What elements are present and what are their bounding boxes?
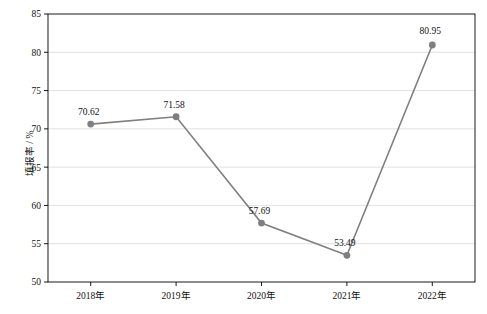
data-point-label: 70.62	[78, 107, 100, 117]
data-point	[87, 121, 94, 128]
data-point-label: 53.49	[334, 238, 356, 248]
x-tick-label: 2021年	[332, 290, 361, 301]
y-axis-ticks: 5055606570758085	[32, 9, 49, 287]
data-point-label: 80.95	[420, 26, 442, 36]
x-axis-ticks: 2018年2019年2020年2021年2022年	[76, 282, 447, 301]
y-tick-label: 70	[32, 124, 42, 134]
y-tick-label: 75	[32, 86, 42, 96]
plot-frame	[48, 14, 475, 282]
y-tick-label: 65	[32, 163, 42, 173]
data-point-label: 57.69	[249, 206, 271, 216]
y-tick-label: 80	[32, 48, 42, 58]
y-tick-label: 55	[32, 239, 42, 249]
x-tick-label: 2019年	[162, 290, 191, 301]
data-point	[258, 220, 265, 227]
data-point	[173, 113, 180, 120]
chart-canvas: 5055606570758085 2018年2019年2020年2021年202…	[0, 0, 487, 314]
x-tick-label: 2022年	[418, 290, 447, 301]
y-tick-label: 50	[32, 277, 42, 287]
data-point-label: 71.58	[163, 100, 185, 110]
y-tick-label: 60	[32, 201, 42, 211]
data-point-labels: 70.6271.5857.6953.4980.95	[78, 26, 441, 248]
line-chart: 填报率 / % 5055606570758085 2018年2019年2020年…	[0, 0, 487, 314]
y-tick-label: 85	[32, 9, 42, 19]
data-points	[87, 42, 435, 259]
x-tick-label: 2020年	[247, 290, 276, 301]
data-point	[429, 42, 436, 49]
x-tick-label: 2018年	[76, 290, 105, 301]
data-point	[344, 252, 351, 259]
